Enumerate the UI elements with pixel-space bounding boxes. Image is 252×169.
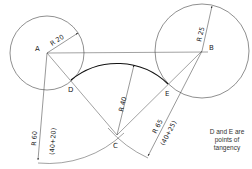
dim-r20: R 20 xyxy=(49,33,66,48)
dim-r60-calc: (40+20) xyxy=(48,128,58,156)
line-ab xyxy=(47,52,208,53)
dim-r65: R 65 xyxy=(151,118,165,135)
dim-r60: R 60 xyxy=(30,131,39,146)
note-line-3: tangency xyxy=(202,144,252,152)
label-e: E xyxy=(165,90,169,98)
label-a: A xyxy=(35,45,40,53)
tangent-arc-r40 xyxy=(71,63,168,84)
label-c: C xyxy=(113,142,118,150)
note-line-2: points of xyxy=(202,136,252,144)
label-d: D xyxy=(68,86,73,94)
dim-r40: R 40 xyxy=(117,96,128,112)
tangency-note: D and E are points of tangency xyxy=(202,128,252,152)
line-b-r65 xyxy=(148,51,202,156)
label-b: B xyxy=(209,44,214,52)
line-a-r60 xyxy=(38,53,47,160)
note-line-1: D and E are xyxy=(202,128,252,136)
